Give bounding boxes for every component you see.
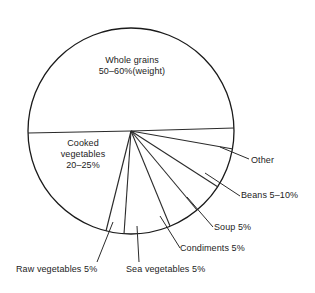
slice-label-beans: Beans 5–10% xyxy=(241,190,298,201)
slice-label-cooked-vegetables-line3: 20–25% xyxy=(40,160,126,171)
slice-label-cooked-vegetables-line2: vegetables xyxy=(40,149,126,160)
slice-label-cooked-vegetables: Cooked vegetables 20–25% xyxy=(40,138,126,171)
pie-chart: Whole grains 50–60%(weight) Cooked veget… xyxy=(0,0,315,293)
slice-label-whole-grains-line1: Whole grains xyxy=(62,55,202,66)
slice-label-condiments: Condiments 5% xyxy=(180,243,245,254)
slice-label-whole-grains-line2: 50–60%(weight) xyxy=(62,66,202,77)
slice-label-other: Other xyxy=(251,155,274,166)
slice-label-cooked-vegetables-line1: Cooked xyxy=(40,138,126,149)
slice-label-soup: Soup 5% xyxy=(214,222,251,233)
slice-label-whole-grains: Whole grains 50–60%(weight) xyxy=(62,55,202,77)
slice-label-raw-vegetables: Raw vegetables 5% xyxy=(16,264,97,275)
slice-label-sea-vegetables: Sea vegetables 5% xyxy=(126,264,205,275)
